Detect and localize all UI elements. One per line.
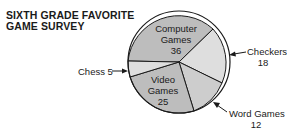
label-computer-line1: Computer [155,23,197,34]
label-video-line1: Video [151,74,175,85]
arrow-icon [213,102,220,108]
label-word-games: Word Games [229,108,285,119]
label-video-line2: Games [148,85,179,96]
arrow-icon [122,69,128,74]
label-word-games-value: 12 [251,119,262,130]
pie-chart: Computer Games 36 Video Games 25 Chess 5… [0,0,287,133]
label-computer-line2: Games [161,34,192,45]
label-video-value: 25 [158,96,169,107]
label-checkers: Checkers [247,46,287,57]
label-chess: Chess 5 [78,66,113,77]
label-computer-value: 36 [171,45,182,56]
label-checkers-value: 18 [258,57,269,68]
